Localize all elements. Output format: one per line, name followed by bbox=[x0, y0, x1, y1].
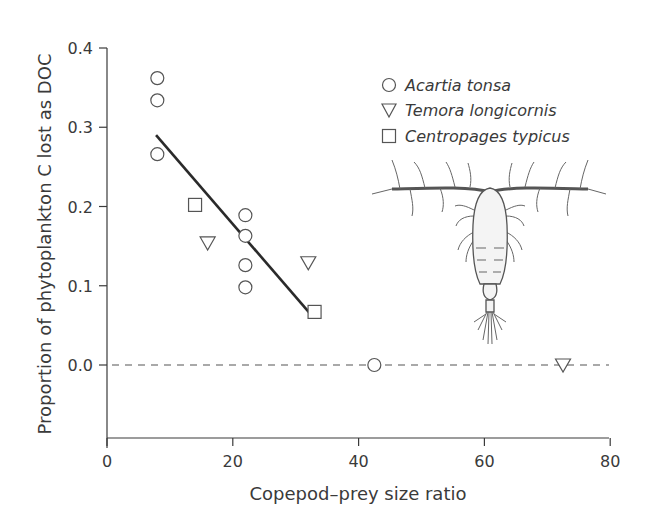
circle-marker-icon bbox=[151, 94, 164, 107]
x-tick-label: 80 bbox=[600, 452, 620, 471]
triangle-down-marker-icon bbox=[200, 237, 215, 250]
circle-marker-icon bbox=[239, 229, 252, 242]
circle-marker-icon bbox=[151, 148, 164, 161]
triangle-down-marker-icon bbox=[301, 257, 316, 270]
x-axis: 020406080 bbox=[102, 438, 620, 471]
y-axis: 0.00.10.20.30.4 bbox=[68, 39, 107, 448]
legend-label-temora: Temora longicornis bbox=[405, 101, 557, 120]
x-tick-label: 0 bbox=[102, 452, 112, 471]
legend-label-acartia: Acartia tonsa bbox=[404, 76, 511, 95]
y-tick-label: 0.4 bbox=[68, 39, 93, 58]
regression-line bbox=[156, 135, 311, 315]
legend-triangle-down-icon bbox=[382, 104, 396, 117]
y-tick-label: 0.1 bbox=[68, 277, 93, 296]
x-tick-label: 40 bbox=[348, 452, 368, 471]
copepod-illustration-icon bbox=[372, 160, 606, 344]
circle-marker-icon bbox=[239, 259, 252, 272]
circle-marker-icon bbox=[368, 359, 381, 372]
circle-marker-icon bbox=[151, 72, 164, 85]
x-tick-label: 20 bbox=[223, 452, 243, 471]
y-tick-label: 0.3 bbox=[68, 118, 93, 137]
legend-square-icon bbox=[383, 130, 396, 143]
x-axis-label: Copepod–prey size ratio bbox=[250, 483, 467, 504]
y-axis-label: Proportion of phytoplankton C lost as DO… bbox=[34, 54, 55, 435]
legend-label-centropages: Centropages typicus bbox=[405, 127, 570, 146]
x-tick-label: 60 bbox=[474, 452, 494, 471]
y-tick-label: 0.0 bbox=[68, 356, 93, 375]
circle-marker-icon bbox=[239, 209, 252, 222]
y-tick-label: 0.2 bbox=[68, 198, 93, 217]
square-marker-icon bbox=[189, 198, 202, 211]
legend: Acartia tonsa Temora longicornis Centrop… bbox=[382, 76, 570, 146]
chart: Proportion of phytoplankton C lost as DO… bbox=[0, 0, 647, 529]
square-marker-icon bbox=[308, 305, 321, 318]
legend-circle-icon bbox=[383, 79, 396, 92]
circle-marker-icon bbox=[239, 281, 252, 294]
